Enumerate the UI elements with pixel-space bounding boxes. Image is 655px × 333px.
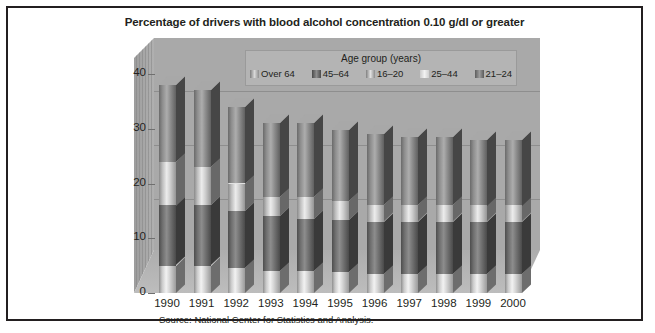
legend-label: 21–24 <box>486 68 512 79</box>
y-axis-tick-label-0: 0 <box>112 285 146 297</box>
x-axis-tick-label-1996: 1996 <box>358 297 392 309</box>
x-axis-tick-label-1992: 1992 <box>219 297 253 309</box>
legend-items: Over 6445–6416–2025–4421–24 <box>250 68 512 79</box>
legend-swatch-21-24-icon <box>475 70 484 78</box>
y-axis-tick-label-10: 10 <box>112 230 146 242</box>
legend-swatch-over-64-icon <box>250 70 259 78</box>
legend-item-25-44[interactable]: 25–44 <box>420 68 457 79</box>
legend-swatch-25-44-icon <box>420 70 429 78</box>
source-note: Source: National Center for Statistics a… <box>159 314 373 325</box>
chart-legend: Age group (years) Over 6445–6416–2025–44… <box>245 50 517 86</box>
y-axis-tick-0 <box>148 293 155 294</box>
legend-item-21-24[interactable]: 21–24 <box>475 68 512 79</box>
legend-swatch-16-20-icon <box>366 70 375 78</box>
legend-item-16-20[interactable]: 16–20 <box>366 68 403 79</box>
x-axis-tick-label-1991: 1991 <box>185 297 219 309</box>
plot-floor <box>134 250 540 293</box>
x-axis-tick-label-2000: 2000 <box>496 297 530 309</box>
x-axis-tick-label-1997: 1997 <box>392 297 426 309</box>
legend-item-over-64[interactable]: Over 64 <box>250 68 295 79</box>
x-axis-tick-label-1990: 1990 <box>150 297 184 309</box>
legend-label: 45–64 <box>323 68 349 79</box>
x-axis-tick-label-1993: 1993 <box>254 297 288 309</box>
legend-title: Age group (years) <box>246 53 516 64</box>
y-axis-tick-40 <box>148 74 155 75</box>
y-axis-tick-label-20: 20 <box>112 176 146 188</box>
legend-label: 16–20 <box>377 68 403 79</box>
x-axis-tick-label-1999: 1999 <box>461 297 495 309</box>
legend-swatch-45-64-icon <box>312 70 321 78</box>
x-axis-tick-label-1994: 1994 <box>288 297 322 309</box>
x-axis-tick-label-1998: 1998 <box>427 297 461 309</box>
y-axis-tick-30 <box>148 129 155 130</box>
legend-label: 25–44 <box>431 68 457 79</box>
legend-item-45-64[interactable]: 45–64 <box>312 68 349 79</box>
x-axis-tick-label-1995: 1995 <box>323 297 357 309</box>
y-axis-tick-20 <box>148 184 155 185</box>
y-axis-tick-10 <box>148 238 155 239</box>
chart-frame: Percentage of drivers with blood alcohol… <box>6 6 643 321</box>
y-axis-tick-label-30: 30 <box>112 121 146 133</box>
legend-label: Over 64 <box>261 68 295 79</box>
y-axis-tick-label-40: 40 <box>112 66 146 78</box>
